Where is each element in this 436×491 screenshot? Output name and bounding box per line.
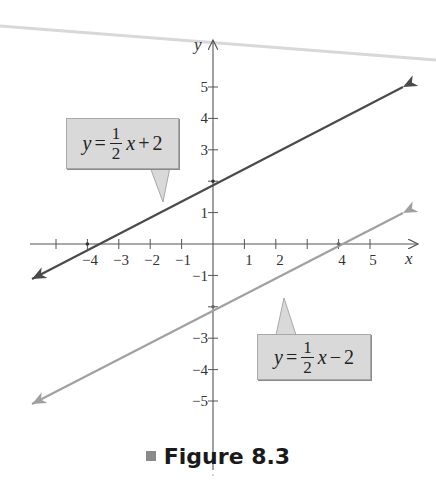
- caption-text: Figure 8.3: [164, 444, 290, 469]
- x-tick-label: 1: [245, 252, 253, 268]
- eq2-equals: =: [286, 346, 297, 369]
- eq1-var: x: [126, 132, 135, 155]
- x-tick-label: 4: [338, 252, 346, 268]
- x-tick-label: −2: [144, 252, 160, 268]
- eq1-lhs: y: [83, 132, 92, 155]
- y-tick-label: −4: [192, 362, 208, 378]
- y-axis-label: y: [192, 35, 202, 54]
- eq2-var: x: [318, 346, 327, 369]
- y-tick-label: −1: [192, 268, 208, 284]
- x-intercept-point-line2: [337, 242, 341, 246]
- page-edge-line: [0, 26, 436, 60]
- caption-bullet-icon: [146, 451, 156, 461]
- y-tick-label: −3: [192, 330, 208, 346]
- axis-end-dot: [212, 474, 214, 476]
- y-tick-label: −5: [192, 393, 208, 409]
- x-tick-label: 2: [276, 252, 284, 268]
- eq2-constant: 2: [344, 346, 354, 369]
- equation-line2: y = 1 2 x − 2: [274, 339, 354, 376]
- y-tick-label: 4: [201, 110, 209, 126]
- x-tick-label: 5: [369, 252, 377, 268]
- callout-pointer-line2: [276, 298, 296, 335]
- y-intercept-point-line2: [211, 305, 215, 309]
- equation-line1: y = 1 2 x + 2: [83, 125, 163, 162]
- eq1-equals: =: [94, 132, 105, 155]
- x-tick-label: −4: [82, 252, 98, 268]
- eq2-lhs: y: [274, 346, 283, 369]
- x-tick-label: −1: [175, 252, 191, 268]
- x-tick-label: −3: [113, 252, 129, 268]
- eq2-fraction: 1 2: [301, 339, 314, 376]
- eq2-denominator: 2: [303, 358, 312, 376]
- y-tick-label: 5: [201, 79, 209, 95]
- line-y-half-x-plus-2: [32, 87, 403, 279]
- y-tick-label: 3: [201, 142, 209, 158]
- y-tick-label: 1: [201, 205, 209, 221]
- equation-label-line1: y = 1 2 x + 2: [66, 118, 179, 169]
- eq2-numerator: 1: [301, 339, 314, 358]
- eq1-denominator: 2: [112, 144, 121, 162]
- figure-caption: Figure 8.3: [0, 444, 436, 469]
- eq1-numerator: 1: [110, 125, 123, 144]
- x-intercept-point-line1: [86, 242, 90, 246]
- callout-pointer-line1: [150, 167, 170, 202]
- x-tick-labels: −4 −3 −2 −1 1 2 4 5: [82, 252, 377, 268]
- y-intercept-point-line1: [211, 179, 215, 183]
- coordinate-plot: y x −4 −3 −2 −1 1 2 4 5 5 4 3 1 −1 −3 −4…: [0, 0, 436, 491]
- equation-label-line2: y = 1 2 x − 2: [257, 334, 371, 380]
- eq2-operator: −: [330, 346, 341, 369]
- x-axis-label: x: [404, 249, 413, 268]
- eq1-fraction: 1 2: [110, 125, 123, 162]
- eq1-operator: +: [138, 132, 149, 155]
- eq1-constant: 2: [152, 132, 162, 155]
